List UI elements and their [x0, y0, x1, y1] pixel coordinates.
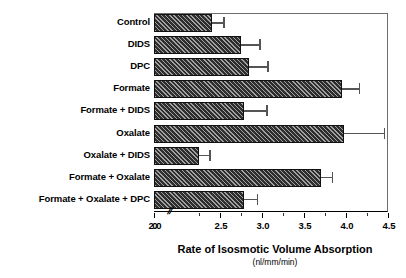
x-minor-tick-4: [367, 213, 368, 216]
x-axis-units: (nl/mm/min): [150, 257, 400, 267]
bar-6: [154, 147, 199, 165]
x-tick-label-1: 2.0: [148, 220, 161, 231]
error-cap-6: [209, 150, 211, 161]
error-bar-1: [241, 44, 259, 46]
error-cap-1: [259, 39, 261, 50]
bar-7: [154, 169, 321, 187]
x-tick-2: [220, 213, 221, 218]
category-label-5: Oxalate: [116, 124, 150, 142]
category-label-6: Oxalate + DIDS: [84, 146, 150, 164]
bar-row: [154, 80, 388, 98]
x-tick-4: [304, 213, 305, 218]
bar-4: [154, 102, 244, 120]
error-bar-5: [344, 133, 383, 135]
error-cap-4: [266, 105, 268, 116]
x-tick-1: [154, 213, 155, 218]
bar-row: [154, 125, 388, 143]
x-tick-5: [346, 213, 347, 218]
bar-row: [154, 169, 388, 187]
x-tick-6: [388, 213, 389, 218]
error-bar-6: [199, 155, 209, 157]
category-label-8: Formate + Oxalate + DPC: [39, 190, 150, 208]
bar-1: [154, 36, 241, 54]
bar-2: [154, 58, 249, 76]
bar-8: [154, 191, 244, 209]
x-tick-label-3: 3.0: [256, 220, 269, 231]
bar-row: [154, 102, 388, 120]
error-bar-7: [321, 177, 332, 179]
x-tick-label-row: 02.02.53.03.54.04.5: [154, 220, 388, 234]
bar-5: [154, 125, 344, 143]
error-cap-2: [267, 61, 269, 72]
category-label-1: DIDS: [128, 35, 150, 53]
x-tick-label-2: 2.5: [214, 220, 227, 231]
bar-row: [154, 191, 388, 209]
error-cap-7: [332, 172, 334, 183]
category-label-4: Formate + DIDS: [80, 101, 150, 119]
bar-row: [154, 147, 388, 165]
x-minor-tick-0: [199, 213, 200, 216]
x-tick-label-4: 3.5: [298, 220, 311, 231]
bar-0: [154, 14, 212, 32]
x-tick-label-5: 4.0: [340, 220, 353, 231]
x-minor-tick-2: [283, 213, 284, 216]
error-cap-8: [257, 194, 259, 205]
category-label-3: Formate: [113, 79, 150, 97]
bar-row: [154, 36, 388, 54]
x-minor-tick-3: [325, 213, 326, 216]
category-label-7: Formate + Oxalate: [69, 168, 150, 186]
bar-row: [154, 58, 388, 76]
plot-area: [154, 13, 388, 212]
error-bar-8: [244, 199, 257, 201]
x-minor-tick-1: [241, 213, 242, 216]
bar-row: [154, 14, 388, 32]
error-bar-2: [249, 66, 267, 68]
error-cap-0: [223, 17, 225, 28]
error-bar-0: [212, 22, 224, 24]
category-label-column: ControlDIDSDPCFormateFormate + DIDSOxala…: [0, 13, 150, 213]
error-bar-4: [244, 110, 267, 112]
x-axis-title: Rate of Isosmotic Volume Absorption: [150, 243, 400, 255]
figure: ControlDIDSDPCFormateFormate + DIDSOxala…: [0, 0, 406, 278]
error-bar-3: [342, 88, 359, 90]
x-tick-label-6: 4.5: [382, 220, 395, 231]
x-tick-3: [262, 213, 263, 218]
error-cap-5: [384, 128, 386, 139]
bar-3: [154, 80, 342, 98]
category-label-0: Control: [117, 13, 150, 31]
category-label-2: DPC: [130, 57, 150, 75]
error-cap-3: [359, 83, 361, 94]
